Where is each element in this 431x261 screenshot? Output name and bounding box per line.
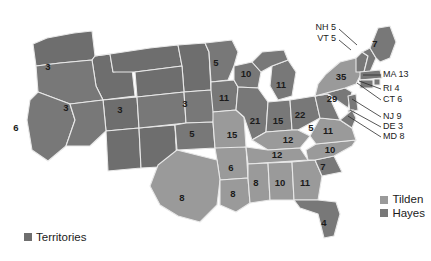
ev-label-il: 21 <box>250 115 261 126</box>
callout-label-new-jersey: NJ 9 <box>383 111 402 121</box>
candidate-legend: Tilden Hayes <box>380 194 425 219</box>
ev-label-wi: 10 <box>241 68 252 79</box>
us-electoral-map-svg: 3633355111568810112115221212810114710115… <box>0 0 431 261</box>
ev-label-ks: 5 <box>189 128 195 139</box>
legend-item-hayes: Hayes <box>380 208 425 220</box>
ev-label-ms: 8 <box>253 177 258 188</box>
ev-label-sc: 7 <box>320 161 325 172</box>
ev-label-ar: 6 <box>228 162 233 173</box>
ev-label-ky: 12 <box>283 134 294 145</box>
state-new-jersey <box>348 94 358 112</box>
ev-label-va: 11 <box>323 125 334 136</box>
state-mississippi <box>248 163 270 203</box>
legend-item-tilden: Tilden <box>380 194 425 206</box>
square-swatch-icon-territories <box>24 233 32 241</box>
electoral-map-figure: 3633355111568810112115221212810114710115… <box>0 0 431 261</box>
callout-label-new-hampshire: NH 5 <box>315 22 336 32</box>
state-colorado <box>137 92 186 128</box>
state-florida <box>294 200 340 238</box>
callout-label-maryland: MD 8 <box>383 131 405 141</box>
territories-legend-label: Territories <box>36 231 86 243</box>
state-kansas <box>175 122 215 150</box>
ev-label-ia: 11 <box>219 92 230 103</box>
ev-label-in: 15 <box>273 115 284 126</box>
callout-label-vermont: VT 5 <box>317 33 336 43</box>
ev-label-al: 10 <box>275 177 286 188</box>
callout-label-massachusetts: MA 13 <box>383 69 409 79</box>
ev-label-oh: 22 <box>295 109 306 120</box>
ev-label-ny: 35 <box>336 71 347 82</box>
ev-label-pa: 29 <box>327 93 338 104</box>
callout-label-connecticut: CT 6 <box>383 94 402 104</box>
callout-label-delaware: DE 3 <box>383 121 403 131</box>
ev-label-mn: 5 <box>213 57 219 68</box>
callout-label-rhode-island: RI 4 <box>383 83 400 93</box>
ev-label-mi: 11 <box>276 79 287 90</box>
square-swatch-icon-tilden <box>380 196 388 204</box>
ev-label-nv: 3 <box>63 102 68 113</box>
ev-label-or: 3 <box>45 61 50 72</box>
ev-label-tn: 12 <box>272 149 283 160</box>
legend-label-tilden: Tilden <box>392 194 423 206</box>
territories-legend: Territories <box>24 231 86 243</box>
ev-label-me: 7 <box>372 38 377 49</box>
ev-label-ca: 6 <box>13 122 18 133</box>
region-arizona-territory <box>106 128 141 171</box>
callout-line-vermont <box>339 40 351 50</box>
ev-label-wv: 5 <box>308 122 314 133</box>
state-rhode-island <box>374 79 380 85</box>
ev-label-ne: 3 <box>182 98 187 109</box>
ev-label-co: 3 <box>117 104 122 115</box>
ev-label-nc: 10 <box>325 144 336 155</box>
ev-label-ga: 11 <box>300 177 311 188</box>
ev-label-fl: 4 <box>321 217 327 228</box>
square-swatch-icon-hayes <box>380 209 388 217</box>
legend-label-hayes: Hayes <box>392 208 425 220</box>
ev-label-la: 8 <box>230 188 235 199</box>
ev-label-tx: 8 <box>179 192 184 203</box>
ev-label-mo: 15 <box>227 129 238 140</box>
